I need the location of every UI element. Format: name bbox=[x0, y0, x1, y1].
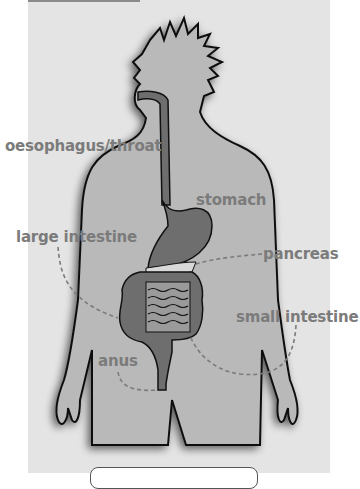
label-large-intestine: large intestine bbox=[16, 228, 137, 246]
label-pancreas: pancreas bbox=[263, 245, 338, 263]
small-intestine-organ bbox=[146, 282, 190, 332]
label-stomach: stomach bbox=[196, 191, 266, 209]
answer-box[interactable] bbox=[90, 467, 258, 489]
label-anus: anus bbox=[98, 352, 138, 370]
label-small-intestine: small intestine bbox=[236, 308, 358, 326]
label-oesophagus: oesophagus/throat bbox=[5, 137, 162, 155]
